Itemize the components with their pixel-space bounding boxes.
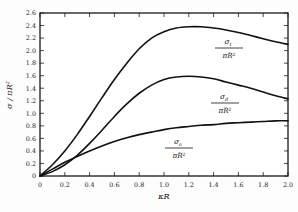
y-tick-label: 2.2 xyxy=(26,34,36,42)
y-tick-label: 2.0 xyxy=(26,47,36,55)
y-tick-label: 1.4 xyxy=(26,85,36,93)
x-tick-label: 1.0 xyxy=(159,181,169,189)
x-tick-label: 0.2 xyxy=(60,181,70,189)
chart-figure: 00.20.40.60.81.01.21.41.61.82.0 00.20.40… xyxy=(0,0,298,212)
x-axis-label: κR xyxy=(157,192,169,201)
x-tick-label: 0.8 xyxy=(134,181,144,189)
y-tick-label: 1.8 xyxy=(26,59,36,67)
y-tick-label: 2.6 xyxy=(26,9,36,17)
plot-background xyxy=(40,13,288,176)
svg-text:πR²: πR² xyxy=(171,151,185,160)
y-tick-label: 2.4 xyxy=(26,22,36,30)
x-tick-label: 1.8 xyxy=(258,181,268,189)
y-tick-label: 0.6 xyxy=(26,135,36,143)
svg-text:πR²: πR² xyxy=(221,51,235,60)
y-tick-label: 0 xyxy=(32,172,36,180)
y-tick-label: 0.8 xyxy=(26,122,36,130)
svg-text:πR²: πR² xyxy=(217,106,231,115)
y-tick-label: 1.2 xyxy=(26,97,36,105)
y-tick-label: 0.4 xyxy=(26,147,36,155)
x-tick-label: 1.6 xyxy=(233,181,243,189)
y-tick-label: 1.6 xyxy=(26,72,36,80)
y-axis-label: σ / πR² xyxy=(5,81,14,109)
y-tick-label: 1.0 xyxy=(26,110,36,118)
x-tick-label: 0.4 xyxy=(85,181,95,189)
svg-text:κR: κR xyxy=(157,192,169,201)
x-tick-label: 1.2 xyxy=(184,181,194,189)
x-tick-label: 1.4 xyxy=(209,181,219,189)
x-tick-label: 2.0 xyxy=(283,181,293,189)
x-tick-label: 0 xyxy=(38,181,42,189)
cross-section-plot: 00.20.40.60.81.01.21.41.61.82.0 00.20.40… xyxy=(0,0,298,212)
x-tick-label: 0.6 xyxy=(109,181,119,189)
y-tick-label: 0.2 xyxy=(26,160,36,168)
svg-text:σ / πR²: σ / πR² xyxy=(5,81,14,109)
